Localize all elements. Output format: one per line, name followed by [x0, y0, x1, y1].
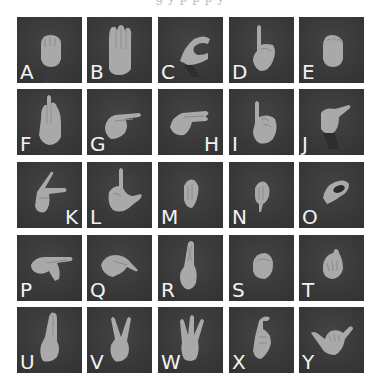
letter-label: V: [90, 352, 104, 372]
letter-label: D: [232, 62, 247, 82]
letter-label: H: [204, 134, 219, 154]
tile-t: T: [299, 235, 364, 301]
letter-label: W: [161, 352, 181, 372]
letter-label: I: [232, 134, 238, 154]
tile-i: I: [229, 89, 294, 155]
hand-sign-j-icon: [299, 89, 364, 155]
letter-label: J: [302, 134, 308, 154]
letter-label: Y: [302, 352, 314, 372]
letter-label: B: [90, 62, 104, 82]
letter-label: U: [20, 352, 35, 372]
tile-g: G: [87, 89, 152, 155]
tile-c: C: [158, 17, 223, 83]
tile-l: L: [87, 162, 152, 228]
letter-label: N: [232, 207, 247, 227]
tile-b: B: [87, 17, 152, 83]
tile-h: H: [158, 89, 223, 155]
letter-label: L: [90, 207, 101, 227]
asl-alphabet-grid: A B C D E F: [0, 0, 380, 390]
tile-o: O: [299, 162, 364, 228]
letter-label: E: [302, 62, 315, 82]
tile-q: Q: [87, 235, 152, 301]
letter-label: O: [302, 207, 318, 227]
tile-y: Y: [299, 307, 364, 373]
caption-bottom-fragment: [0, 381, 380, 390]
tile-r: R: [158, 235, 223, 301]
letter-label: C: [161, 62, 175, 82]
letter-label: Q: [90, 280, 106, 300]
tile-s: S: [229, 235, 294, 301]
tile-a: A: [17, 17, 82, 83]
tile-f: F: [17, 89, 82, 155]
hand-sign-i-icon: [229, 89, 294, 155]
tile-v: V: [87, 307, 152, 373]
tile-e: E: [299, 17, 364, 83]
letter-label: M: [161, 207, 178, 227]
letter-label: T: [302, 280, 314, 300]
tile-j: J: [299, 89, 364, 155]
tile-x: X: [229, 307, 294, 373]
letter-label: S: [232, 280, 245, 300]
tile-w: W: [158, 307, 223, 373]
tile-n: N: [229, 162, 294, 228]
letter-label: A: [20, 62, 34, 82]
tile-k: K: [17, 162, 82, 228]
letter-label: R: [161, 280, 175, 300]
letter-label: K: [65, 207, 78, 227]
letter-label: G: [90, 134, 106, 154]
tile-m: M: [158, 162, 223, 228]
letter-label: X: [232, 352, 246, 372]
tile-u: U: [17, 307, 82, 373]
tile-d: D: [229, 17, 294, 83]
letter-label: F: [20, 134, 32, 154]
letter-label: P: [20, 280, 32, 300]
tile-p: P: [17, 235, 82, 301]
